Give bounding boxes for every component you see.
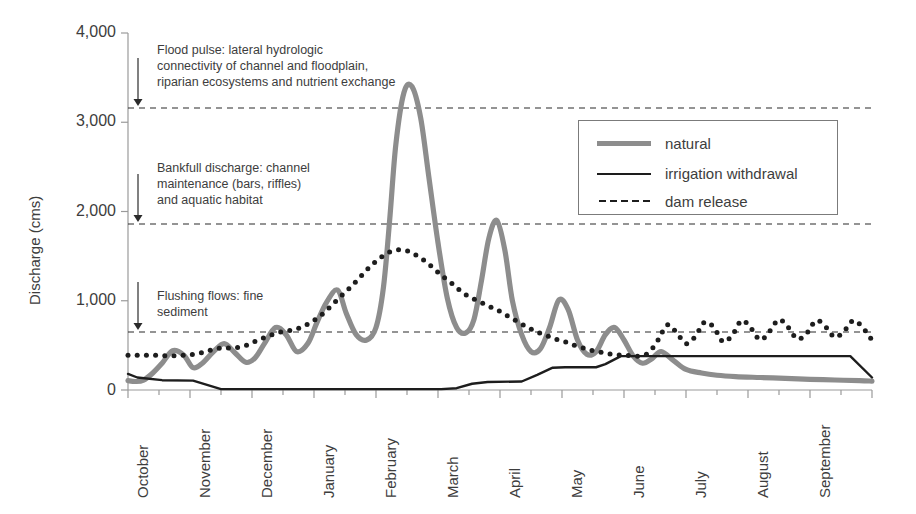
thick-gray-line-key <box>593 136 655 150</box>
legend-item-irrigation-withdrawal: irrigation withdrawal <box>593 163 798 183</box>
x-tick-label-july: July <box>692 471 709 498</box>
x-tick-label-august: August <box>754 451 771 498</box>
x-tick-label-november: November <box>196 429 213 498</box>
dotted-black-line-key <box>593 194 655 208</box>
x-tick-label-december: December <box>258 429 275 498</box>
legend-item-natural: natural <box>593 133 711 153</box>
x-axis-ticks <box>128 390 872 398</box>
x-tick-label-september: September <box>816 425 833 498</box>
legend: natural irrigation withdrawal dam releas… <box>578 120 838 215</box>
legend-item-dam-release: dam release <box>593 191 748 211</box>
x-tick-label-february: February <box>382 438 399 498</box>
series-dam-release <box>126 247 874 358</box>
x-tick-label-october: October <box>134 445 151 498</box>
y-axis-ticks <box>121 33 128 390</box>
x-tick-label-june: June <box>630 465 647 498</box>
figure-canvas: Discharge (cms) 4,000 3,000 2,000 1,000 … <box>0 0 916 514</box>
legend-label-natural: natural <box>665 135 711 152</box>
annotation-arrows <box>134 58 143 330</box>
legend-label-irrigation-withdrawal: irrigation withdrawal <box>665 165 798 182</box>
x-tick-label-january: January <box>320 445 337 498</box>
x-tick-label-may: May <box>568 470 585 498</box>
legend-label-dam-release: dam release <box>665 193 748 210</box>
x-tick-label-april: April <box>506 468 523 498</box>
thin-black-line-key <box>593 166 655 180</box>
plot-area <box>0 0 916 514</box>
x-tick-label-march: March <box>444 456 461 498</box>
